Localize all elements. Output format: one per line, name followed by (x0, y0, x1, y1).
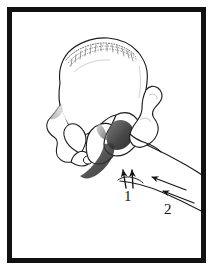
label-2: 2 (164, 202, 172, 217)
label-1: 1 (124, 189, 132, 204)
arrow-1b (132, 170, 133, 188)
arrow-1a (123, 170, 126, 188)
anatomy-illustration (0, 0, 213, 270)
arrow-2a (152, 177, 186, 190)
figure-root: 1 2 (0, 0, 213, 270)
force-arrows-group-1 (123, 170, 133, 188)
femoral-shaft-upper-border (147, 145, 213, 183)
